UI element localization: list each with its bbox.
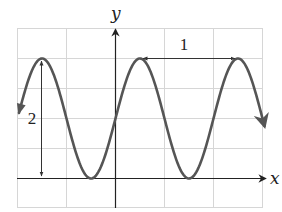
sine-graph: x y 1 2 xyxy=(0,0,282,212)
grid xyxy=(17,28,263,208)
period-label: 1 xyxy=(180,35,189,54)
height-label: 2 xyxy=(28,109,37,128)
x-axis-label: x xyxy=(270,168,280,188)
y-axis-label: y xyxy=(110,3,121,23)
